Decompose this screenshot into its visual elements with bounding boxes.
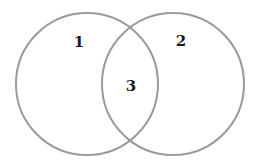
region-3-label: 3 bbox=[126, 77, 136, 95]
venn-diagram: 1 2 3 bbox=[0, 0, 256, 166]
right-circle bbox=[102, 13, 244, 155]
left-circle bbox=[16, 13, 158, 155]
region-2-label: 2 bbox=[176, 32, 186, 50]
region-1-label: 1 bbox=[74, 33, 84, 51]
